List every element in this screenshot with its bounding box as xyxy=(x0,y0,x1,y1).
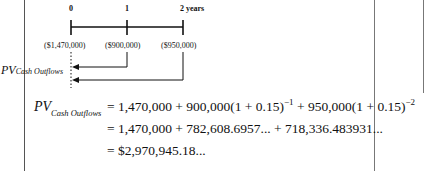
pv-label: PV xyxy=(1,63,16,77)
cash-flow-0: ($1,470,000) xyxy=(44,41,85,50)
equation-line-1-part-a: = 1,470,000 + 900,000(1 + 0.15) xyxy=(107,99,284,114)
equation-line-3: = $2,970,945.18... xyxy=(107,143,206,159)
equation-lhs-subscript: Cash Outflows xyxy=(51,108,101,118)
pv-cash-outflows-label: PVCash Outflows xyxy=(1,63,63,78)
equation-lhs: PVCash Outflows xyxy=(34,99,101,118)
equation-lhs-pv: PV xyxy=(34,99,51,114)
equation-line-1: = 1,470,000 + 900,000(1 + 0.15)−1 + 950,… xyxy=(107,99,415,115)
equation-line-1-part-b: + 950,000(1 + 0.15) xyxy=(294,99,406,114)
exponent-1: −1 xyxy=(284,97,294,107)
exponent-2: −2 xyxy=(406,97,416,107)
cash-flow-1: ($900,000) xyxy=(105,41,140,50)
equation-line-2: = 1,470,000 + 782,608.6957... + 718,336.… xyxy=(107,121,383,137)
cash-flow-2: ($950,000) xyxy=(161,41,196,50)
pv-subscript: Cash Outflows xyxy=(16,67,63,76)
